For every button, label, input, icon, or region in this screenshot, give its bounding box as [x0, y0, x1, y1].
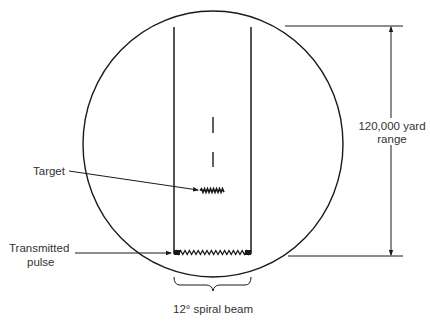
target-label: Target: [33, 165, 66, 177]
scope-circle: [83, 11, 343, 277]
range-label-line2: range: [377, 133, 406, 145]
target-blip-trace: [200, 189, 224, 193]
target-blip: [200, 189, 224, 193]
beam-width-brace: [174, 277, 251, 291]
radar-scope-diagram: Target Transmitted pulse 120,000 yard ra…: [0, 0, 430, 324]
transmitted-pulse-trace: [174, 250, 251, 255]
range-label-line1: 120,000 yard: [358, 120, 425, 132]
pulse-start-mark: [174, 250, 180, 255]
pulse-zigzag: [174, 251, 251, 255]
transmitted-pulse-label-line2: pulse: [27, 256, 55, 268]
pulse-end-mark: [245, 250, 251, 255]
beam-label: 12° spiral beam: [173, 303, 253, 315]
transmitted-pulse-label-line1: Transmitted: [9, 242, 69, 254]
